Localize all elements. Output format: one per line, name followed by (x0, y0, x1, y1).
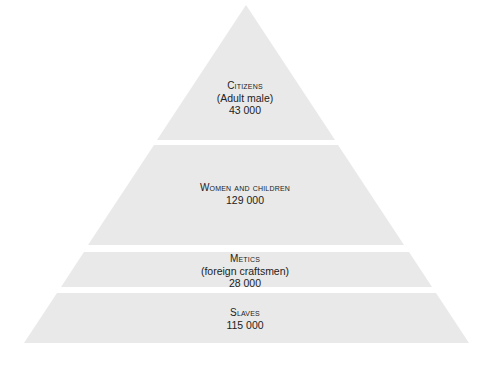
tier-title: Women and children (0, 182, 490, 194)
tier-title: Slaves (0, 307, 490, 319)
tier-subtitle: (Adult male) (0, 92, 490, 104)
tier-title: Citizens (0, 80, 490, 92)
tier-slaves-label: Slaves 115 000 (0, 307, 490, 331)
tier-women-children-label: Women and children 129 000 (0, 182, 490, 206)
tier-subtitle: (foreign craftsmen) (0, 265, 490, 277)
tier-count: 28 000 (0, 277, 490, 289)
tier-count: 129 000 (0, 194, 490, 206)
tier-count: 43 000 (0, 104, 490, 116)
tier-citizens-label: Citizens (Adult male) 43 000 (0, 80, 490, 116)
tier-title: Metics (0, 253, 490, 265)
tier-citizens-shape (157, 5, 335, 140)
tier-count: 115 000 (0, 319, 490, 331)
tier-metics-label: Metics (foreign craftsmen) 28 000 (0, 253, 490, 289)
